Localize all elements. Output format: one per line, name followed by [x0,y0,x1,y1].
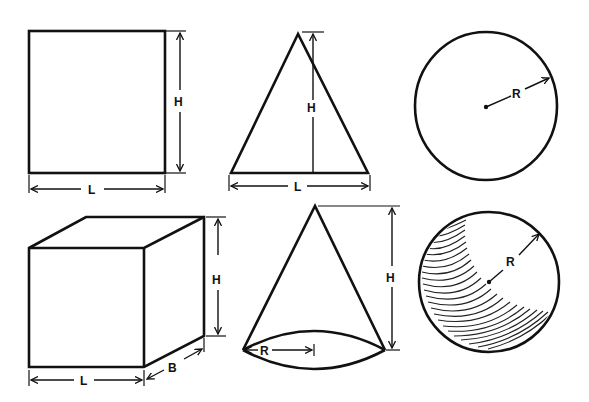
cube-breadth-dimension: B [147,338,204,379]
sphere-shading [422,220,552,349]
triangle-length-label: L [294,180,301,194]
sphere-figure: R [419,212,559,352]
triangle-height-dimension: H [302,32,324,173]
triangle-length-dimension: L [229,175,370,194]
triangle-figure: H L [229,32,370,194]
cube-outline [29,217,204,367]
cube-height-label: H [212,273,221,287]
cube-breadth-label: B [168,361,177,375]
cone-height-label: H [386,271,395,285]
cube-length-label: L [80,374,87,388]
triangle-height-label: H [307,101,316,115]
circle-figure: R [415,32,557,180]
circle-radius-label: R [512,87,521,101]
geometry-diagram: H L H L R [0,0,589,402]
cone-radius-label: R [260,344,269,358]
cone-figure: R H [243,206,400,369]
cube-figure: H L B [29,217,226,388]
cone-sides [243,206,385,350]
square-figure: H L [29,31,186,197]
cube-height-dimension: H [206,217,226,336]
square-length-dimension: L [29,175,165,197]
circle-radius-dimension: R [486,78,549,107]
triangle-shape [231,34,368,173]
sphere-radius-dimension: R [489,234,539,282]
sphere-radius-label: R [506,255,515,269]
square-height-dimension: H [166,31,186,173]
cube-length-dimension: L [29,370,144,388]
square-height-label: H [174,95,183,109]
square-length-label: L [88,183,95,197]
cone-height-dimension: H [318,206,400,350]
square-shape [29,31,165,173]
